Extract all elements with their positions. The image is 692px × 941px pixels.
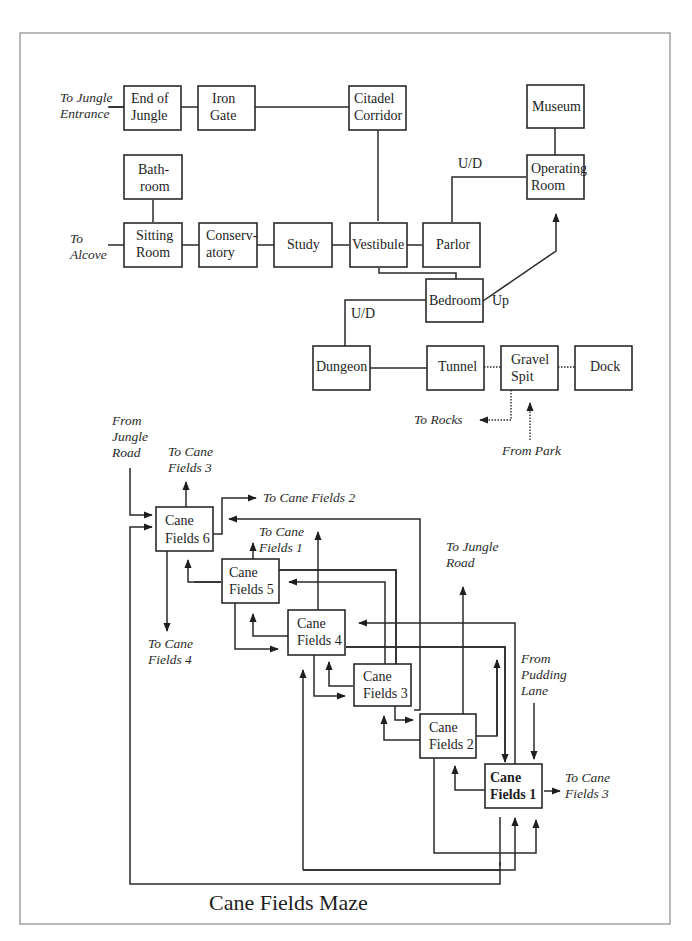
room-sitting-room[interactable]: Sitting Room bbox=[124, 223, 182, 267]
exit-to-jungle-road: To Jungle Road bbox=[445, 539, 498, 570]
room-label: Iron bbox=[212, 91, 235, 106]
room-label: Fields 5 bbox=[229, 582, 274, 597]
svg-text:Road: Road bbox=[445, 555, 475, 570]
svg-text:Fields 4: Fields 4 bbox=[147, 652, 192, 667]
svg-text:To Cane: To Cane bbox=[565, 770, 610, 785]
room-label: Fields 2 bbox=[429, 737, 474, 752]
room-cane-fields-4[interactable]: Cane Fields 4 bbox=[288, 610, 345, 655]
room-label: Tunnel bbox=[438, 359, 477, 374]
exit-from-park: From Park bbox=[501, 443, 562, 458]
room-label: Cane bbox=[165, 513, 194, 528]
svg-text:Road: Road bbox=[111, 445, 141, 460]
room-label: Fields 3 bbox=[363, 686, 408, 701]
room-label: Room bbox=[531, 178, 565, 193]
exit-cf6-to-cf2: To Cane Fields 2 bbox=[263, 490, 355, 505]
room-museum[interactable]: Museum bbox=[527, 85, 584, 128]
room-label: atory bbox=[206, 245, 235, 260]
svg-text:Jungle: Jungle bbox=[112, 429, 148, 444]
room-cane-fields-2[interactable]: Cane Fields 2 bbox=[420, 714, 476, 758]
room-conservatory[interactable]: Conserv- atory bbox=[199, 223, 258, 267]
room-label: Bath- bbox=[138, 162, 169, 177]
room-label: Bedroom bbox=[429, 293, 481, 308]
svg-text:Entrance: Entrance bbox=[59, 106, 110, 121]
exit-to-jungle-entrance: To Jungle Entrance bbox=[59, 90, 112, 121]
exit-to-rocks: To Rocks bbox=[414, 412, 463, 427]
room-label: Cane bbox=[297, 616, 326, 631]
room-gravel-spit[interactable]: Gravel Spit bbox=[501, 346, 558, 390]
exit-cf5-to-cf1: To Cane Fields 1 bbox=[258, 524, 304, 555]
map-diagram: End of Jungle Iron Gate Citadel Corridor… bbox=[0, 0, 692, 941]
exit-to-alcove: To Alcove bbox=[69, 231, 107, 262]
room-label: Sitting bbox=[136, 228, 173, 243]
svg-text:From: From bbox=[111, 413, 142, 428]
room-iron-gate[interactable]: Iron Gate bbox=[198, 86, 255, 130]
room-vestibule[interactable]: Vestibule bbox=[350, 223, 407, 267]
room-label: Cane bbox=[490, 770, 521, 785]
svg-text:From: From bbox=[520, 651, 551, 666]
exit-from-jungle-road: From Jungle Road bbox=[111, 413, 148, 460]
room-label: Vestibule bbox=[352, 237, 404, 252]
svg-text:To Jungle: To Jungle bbox=[446, 539, 498, 554]
svg-text:Pudding: Pudding bbox=[520, 667, 567, 682]
svg-text:Alcove: Alcove bbox=[69, 247, 107, 262]
room-label: Cane bbox=[429, 720, 458, 735]
svg-text:Fields 1: Fields 1 bbox=[258, 540, 303, 555]
room-label: Parlor bbox=[436, 237, 471, 252]
ud-label: U/D bbox=[351, 306, 375, 321]
map-title: Cane Fields Maze bbox=[209, 890, 368, 915]
room-label: Gate bbox=[210, 108, 236, 123]
svg-text:To Cane: To Cane bbox=[168, 444, 213, 459]
room-cane-fields-6[interactable]: Cane Fields 6 bbox=[156, 507, 213, 551]
room-label: End of bbox=[131, 91, 169, 106]
room-bathroom[interactable]: Bath- room bbox=[124, 155, 182, 199]
svg-text:Fields 3: Fields 3 bbox=[167, 460, 212, 475]
room-dock[interactable]: Dock bbox=[575, 346, 632, 390]
room-bedroom[interactable]: Bedroom bbox=[426, 279, 483, 322]
room-label: room bbox=[140, 179, 170, 194]
exit-from-pudding-lane: From Pudding Lane bbox=[520, 651, 567, 698]
room-label: Spit bbox=[511, 369, 534, 384]
room-label: Gravel bbox=[511, 352, 549, 367]
room-cane-fields-5[interactable]: Cane Fields 5 bbox=[222, 559, 279, 603]
room-label: Conserv- bbox=[206, 228, 258, 243]
room-label: Dock bbox=[590, 359, 620, 374]
room-label: Operating bbox=[531, 161, 587, 176]
room-study[interactable]: Study bbox=[274, 223, 332, 267]
exit-cf1-to-cf3: To Cane Fields 3 bbox=[564, 770, 610, 801]
room-label: Study bbox=[287, 237, 320, 252]
room-label: Cane bbox=[363, 669, 392, 684]
svg-text:To Cane: To Cane bbox=[148, 636, 193, 651]
room-label: Room bbox=[136, 245, 170, 260]
exit-cf6-to-cf3: To Cane Fields 3 bbox=[167, 444, 213, 475]
room-label: Cane bbox=[229, 565, 258, 580]
svg-text:Lane: Lane bbox=[520, 683, 548, 698]
room-label: Museum bbox=[532, 99, 581, 114]
svg-text:Fields 3: Fields 3 bbox=[564, 786, 609, 801]
room-label: Corridor bbox=[354, 108, 403, 123]
room-cane-fields-3[interactable]: Cane Fields 3 bbox=[354, 664, 411, 706]
ud-label: U/D bbox=[458, 156, 482, 171]
room-label: Fields 4 bbox=[297, 633, 342, 648]
svg-text:To: To bbox=[70, 231, 83, 246]
room-cane-fields-1[interactable]: Cane Fields 1 bbox=[485, 764, 542, 808]
room-label: Fields 1 bbox=[490, 787, 536, 802]
svg-text:To Cane: To Cane bbox=[259, 524, 304, 539]
room-label: Fields 6 bbox=[165, 531, 210, 546]
room-citadel-corridor[interactable]: Citadel Corridor bbox=[349, 86, 406, 130]
svg-text:To Jungle: To Jungle bbox=[60, 90, 112, 105]
room-label: Jungle bbox=[131, 108, 168, 123]
room-label: Dungeon bbox=[316, 359, 367, 374]
room-parlor[interactable]: Parlor bbox=[423, 223, 480, 267]
exit-cf6-to-cf4: To Cane Fields 4 bbox=[147, 636, 193, 667]
room-end-of-jungle[interactable]: End of Jungle bbox=[124, 86, 181, 130]
room-label: Citadel bbox=[354, 91, 395, 106]
room-dungeon[interactable]: Dungeon bbox=[313, 346, 370, 390]
room-tunnel[interactable]: Tunnel bbox=[427, 346, 484, 390]
up-label: Up bbox=[492, 293, 509, 308]
room-operating-room[interactable]: Operating Room bbox=[527, 155, 587, 199]
